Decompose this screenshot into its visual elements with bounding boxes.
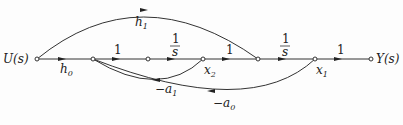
node-n4 — [256, 57, 260, 61]
node-n2 — [146, 57, 150, 61]
node-label-x2: x2 — [204, 63, 216, 79]
arrow-icon — [334, 57, 342, 61]
arrow-icon — [207, 89, 215, 93]
node-x1 — [313, 57, 317, 61]
gain-1-over-s-den: s — [282, 45, 288, 59]
node-U — [35, 57, 39, 61]
arrow-icon — [140, 8, 148, 12]
node-n1 — [91, 57, 95, 61]
node-Y — [369, 57, 373, 61]
gain-1-over-s-num: 1 — [172, 32, 180, 46]
diagram-svg: U(s) Y(s) x2 x1 h0 1 1 s 1 1 s 1 h1 −a1 … — [0, 0, 403, 125]
signal-flow-graph: U(s) Y(s) x2 x1 h0 1 1 s 1 1 s 1 h1 −a1 … — [0, 0, 403, 125]
arrow-icon — [58, 57, 66, 61]
node-label-Y: Y(s) — [376, 52, 400, 66]
gain-neg-a1: −a1 — [155, 82, 177, 98]
gain-1: 1 — [226, 43, 234, 57]
gain-h0: h0 — [60, 62, 73, 78]
node-x2 — [201, 57, 205, 61]
gain-1: 1 — [114, 43, 122, 57]
gain-1-over-s-num: 1 — [282, 32, 290, 46]
arrow-icon — [112, 57, 120, 61]
gain-1-over-s-den: s — [172, 45, 178, 59]
edge-x2-n1-a1 — [93, 59, 203, 80]
arrow-icon — [222, 57, 230, 61]
gain-1: 1 — [337, 43, 345, 57]
node-label-x1: x1 — [316, 63, 328, 79]
gain-neg-a0: −a0 — [213, 96, 235, 112]
node-label-U: U(s) — [3, 52, 29, 66]
